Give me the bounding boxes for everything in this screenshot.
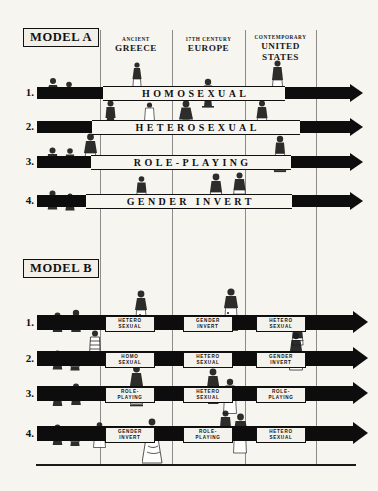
model-b-row-number: 2. xyxy=(14,352,34,364)
model-b-cell-caption: HETERO SEXUAL xyxy=(105,316,155,332)
arrow-head-icon xyxy=(353,311,368,333)
model-a-row-number: 2. xyxy=(14,120,34,132)
arrow-head-icon xyxy=(350,192,363,210)
era-header-17th-century-europe: 17th CENTURY EUROPE xyxy=(173,36,244,54)
model-b-row-number: 3. xyxy=(14,387,34,399)
model-b-cell-caption: ROLE- PLAYING xyxy=(105,387,155,403)
arrow-head-icon xyxy=(353,422,368,444)
model-b-cell-caption: GENDER INVERT xyxy=(105,427,155,443)
bottom-baseline xyxy=(36,464,356,466)
model-a-caption: ROLE-PLAYING xyxy=(91,155,291,170)
model-a-row-number: 3. xyxy=(14,155,34,167)
model-a-label: MODEL A xyxy=(23,28,99,47)
era-header-ancient-greece: ANCIENT GREECE xyxy=(101,36,171,54)
arrow-head-icon xyxy=(350,153,363,171)
arrow-head-icon xyxy=(353,347,368,369)
arrow-head-icon xyxy=(353,382,368,404)
model-b-cell-caption: HOMO SEXUAL xyxy=(105,352,155,368)
model-b-cell-caption: HETERO SEXUAL xyxy=(256,427,306,443)
era-header-17th-century-europe-qualifier: 17th CENTURY xyxy=(173,36,244,43)
era-header-17th-century-europe-name: EUROPE xyxy=(173,43,244,55)
era-header-contemporary-united-states-name-line1: UNITED xyxy=(246,41,315,53)
model-a-row-number: 4. xyxy=(14,194,34,206)
model-a-caption: HETEROSEXUAL xyxy=(92,120,300,135)
model-b-cell-caption: ROLE- PLAYING xyxy=(183,427,233,443)
model-a-row-number: 1. xyxy=(14,86,34,98)
model-b-row-number: 1. xyxy=(14,316,34,328)
arrow-head-icon xyxy=(350,118,363,136)
era-header-ancient-greece-qualifier: ANCIENT xyxy=(101,36,171,43)
model-b-row-number: 4. xyxy=(14,427,34,439)
arrow-head-icon xyxy=(350,84,363,102)
model-b-label: MODEL B xyxy=(23,259,99,278)
model-b-cell-caption: HETERO SEXUAL xyxy=(183,352,233,368)
era-header-contemporary-united-states-qualifier: CONTEMPORARY xyxy=(246,34,315,41)
model-b-cell-caption: GENDER INVERT xyxy=(256,352,306,368)
model-b-cell-caption: HETERO SEXUAL xyxy=(256,316,306,332)
era-header-ancient-greece-name: GREECE xyxy=(101,43,171,55)
model-b-cell-caption: ROLE- PLAYING xyxy=(256,387,306,403)
model-a-caption: GENDER INVERT xyxy=(86,194,292,209)
model-a-caption: HOMOSEXUAL xyxy=(103,86,285,101)
model-b-cell-caption: GENDER INVERT xyxy=(183,316,233,332)
diagram-canvas: ANCIENT GREECE 17th CENTURY EUROPE CONTE… xyxy=(0,0,378,491)
model-b-cell-caption: HETERO SEXUAL xyxy=(183,387,233,403)
